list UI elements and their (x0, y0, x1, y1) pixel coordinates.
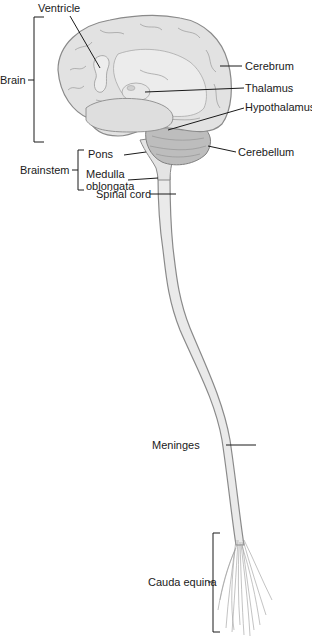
label-cauda-equina: Cauda equina (148, 576, 217, 588)
label-cerebrum: Cerebrum (245, 60, 294, 72)
label-medulla-line1: Medulla (86, 168, 134, 180)
label-spinal-cord: Spinal cord (96, 188, 151, 200)
cauda-equina-fibers (218, 540, 272, 636)
spinal-cord-shape (158, 176, 244, 545)
label-hypothalamus: Hypothalamus (245, 101, 312, 113)
label-cerebellum: Cerebellum (238, 146, 294, 158)
label-brain: Brain (0, 74, 26, 86)
label-brainstem: Brainstem (20, 164, 70, 176)
cerebrum-shape (58, 16, 231, 136)
label-thalamus: Thalamus (245, 82, 293, 94)
label-ventricle: Ventricle (38, 2, 80, 14)
label-pons: Pons (88, 148, 113, 160)
cns-diagram (0, 0, 312, 639)
label-meninges: Meninges (152, 439, 200, 451)
